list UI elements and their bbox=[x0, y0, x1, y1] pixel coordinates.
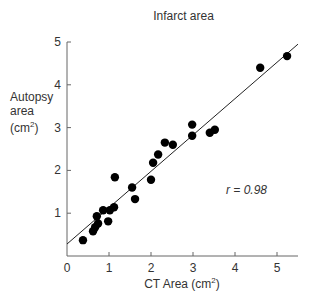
data-point bbox=[149, 158, 157, 166]
data-point bbox=[131, 195, 139, 203]
data-point bbox=[169, 141, 177, 149]
x-tick-label: 1 bbox=[106, 261, 113, 275]
data-point bbox=[93, 212, 101, 220]
data-point bbox=[94, 219, 102, 227]
scatter-plot: 01234512345 bbox=[0, 0, 312, 297]
x-tick-label: 5 bbox=[274, 261, 281, 275]
x-tick-label: 2 bbox=[148, 261, 155, 275]
x-tick-label: 3 bbox=[190, 261, 197, 275]
data-point bbox=[283, 52, 291, 60]
data-point bbox=[154, 150, 162, 158]
data-point bbox=[104, 217, 112, 225]
data-point bbox=[161, 138, 169, 146]
y-tick-label: 4 bbox=[54, 78, 61, 92]
data-point bbox=[128, 183, 136, 191]
y-tick-label: 5 bbox=[54, 35, 61, 49]
data-point bbox=[188, 120, 196, 128]
data-point bbox=[111, 173, 119, 181]
y-tick-label: 2 bbox=[54, 163, 61, 177]
data-point bbox=[79, 236, 87, 244]
x-tick-label: 0 bbox=[64, 261, 71, 275]
data-point bbox=[211, 126, 219, 134]
y-tick-label: 3 bbox=[54, 121, 61, 135]
data-point bbox=[147, 176, 155, 184]
data-point bbox=[256, 63, 264, 71]
x-tick-label: 4 bbox=[232, 261, 239, 275]
data-point bbox=[188, 132, 196, 140]
y-tick-label: 1 bbox=[54, 206, 61, 220]
data-point bbox=[110, 203, 118, 211]
